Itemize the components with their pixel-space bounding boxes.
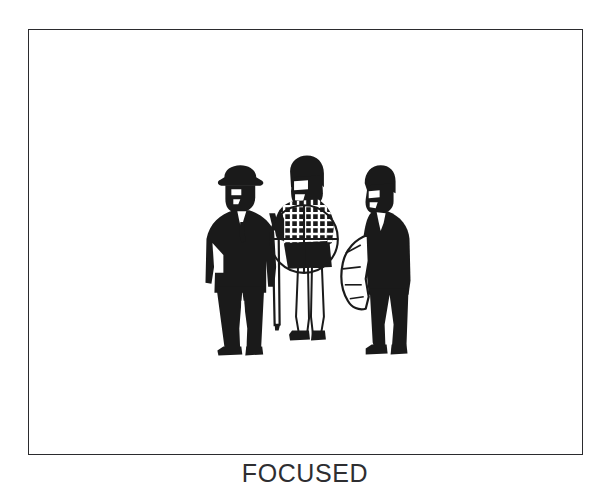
face-highlight [369,190,380,198]
draped-coat-icon [341,235,368,309]
figure-plate: FOCUSED [0,0,610,491]
legs-trousers [370,289,409,352]
figure-left-man [205,165,280,355]
fedora-hat-icon [218,165,263,185]
legs-trousers [216,287,264,353]
figure-right-man [341,165,410,354]
head [366,183,394,213]
shoe-left [217,347,242,356]
shoe-right [245,347,263,356]
illustration-frame [28,29,583,455]
illustration-canvas [29,30,582,454]
torso-suit [364,211,411,295]
legs [289,267,326,341]
face-highlight [231,189,241,195]
figure-caption: FOCUSED [0,456,610,490]
face-highlight [294,180,308,190]
crosshair-reticle-icon [270,205,338,273]
figure-center-woman [275,155,338,340]
checkered-jacket [275,195,338,249]
shoe-left [366,345,388,355]
shoe-right [391,345,408,355]
